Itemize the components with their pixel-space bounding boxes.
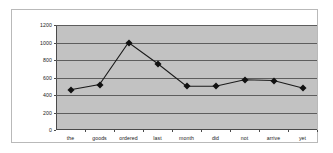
x-axis-tick-mark xyxy=(317,130,318,132)
y-axis-tick-mark xyxy=(54,130,56,131)
chart-figure: 020040060080010001200 thegoodsorderedlas… xyxy=(11,9,318,143)
y-axis-tick-label: 400 xyxy=(43,92,52,98)
x-axis-tick-label: not xyxy=(241,135,249,141)
x-axis-tick-mark xyxy=(172,130,173,132)
x-axis-tick-mark xyxy=(288,130,289,132)
y-axis-tick-label: 600 xyxy=(43,75,52,81)
plot-area: 020040060080010001200 thegoodsorderedlas… xyxy=(56,25,317,130)
x-axis-tick-mark xyxy=(85,130,86,132)
y-axis-tick-label: 1200 xyxy=(40,22,52,28)
x-axis-tick-mark xyxy=(114,130,115,132)
x-axis-tick-mark xyxy=(259,130,260,132)
x-axis-tick-label: yet xyxy=(299,135,306,141)
y-axis-tick-label: 1000 xyxy=(40,40,52,46)
x-axis-tick-label: ordered xyxy=(119,135,138,141)
y-axis-tick-label: 200 xyxy=(43,110,52,116)
y-axis-tick-label: 0 xyxy=(49,127,52,133)
x-axis-tick-mark xyxy=(230,130,231,132)
x-axis-tick-label: goods xyxy=(92,135,107,141)
x-axis-tick-mark xyxy=(143,130,144,132)
x-axis-tick-mark xyxy=(201,130,202,132)
x-axis-tick-label: arrive xyxy=(267,135,281,141)
x-axis-tick-label: month xyxy=(179,135,194,141)
x-axis-tick-label: the xyxy=(67,135,75,141)
x-axis-tick-label: last xyxy=(153,135,161,141)
data-series-line xyxy=(56,25,317,130)
y-axis-tick-label: 800 xyxy=(43,57,52,63)
x-axis-tick-label: did xyxy=(212,135,219,141)
